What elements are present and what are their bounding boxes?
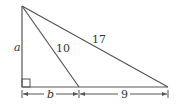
arrow-left-9 (80, 92, 85, 96)
arrow-left-b (23, 92, 28, 96)
triangle-figure: a 10 17 b 9 (0, 0, 178, 107)
right-angle-marker (22, 79, 30, 87)
label-9: 9 (121, 88, 128, 101)
hypotenuse-17 (22, 6, 168, 87)
label-17: 17 (92, 33, 106, 46)
label-b: b (47, 88, 54, 101)
label-10: 10 (56, 42, 70, 55)
label-a: a (14, 41, 21, 54)
inner-segment-10 (22, 6, 79, 87)
arrow-right-b (73, 92, 78, 96)
triangle-diagram: a 10 17 b 9 (0, 0, 178, 107)
arrow-right-9 (162, 92, 167, 96)
